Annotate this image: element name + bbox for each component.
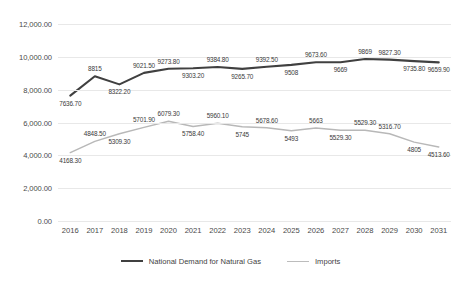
x-axis-tick-label: 2017 bbox=[86, 226, 103, 235]
x-axis-tick-label: 2019 bbox=[136, 226, 153, 235]
data-label: 9273.80 bbox=[158, 58, 180, 65]
y-axis: 12,000.0010,000.008,000.006,000.004,000.… bbox=[0, 0, 58, 240]
y-axis-tick-label: 2,000.00 bbox=[0, 184, 52, 193]
x-axis-tick-label: 2018 bbox=[111, 226, 128, 235]
x-axis-tick-label: 2021 bbox=[185, 226, 202, 235]
data-label: 5663 bbox=[309, 117, 323, 124]
data-label: 8815 bbox=[88, 65, 102, 72]
data-label: 5309.30 bbox=[108, 138, 130, 145]
data-label: 9384.80 bbox=[207, 56, 229, 63]
data-label: 9508 bbox=[285, 69, 299, 76]
gridline bbox=[58, 221, 451, 222]
y-axis-tick-label: 6,000.00 bbox=[0, 118, 52, 127]
data-label: 9735.80 bbox=[403, 65, 425, 72]
legend-item-label: National Demand for Natural Gas bbox=[149, 257, 261, 266]
x-axis-tick-label: 2030 bbox=[406, 226, 423, 235]
y-axis-tick-label: 4,000.00 bbox=[0, 151, 52, 160]
data-label: 9265.70 bbox=[231, 73, 253, 80]
x-axis-tick-label: 2024 bbox=[258, 226, 275, 235]
data-label: 9869 bbox=[358, 48, 372, 55]
x-axis-tick-label: 2025 bbox=[283, 226, 300, 235]
data-label: 9673.60 bbox=[305, 51, 327, 58]
data-label: 9303.20 bbox=[182, 72, 204, 79]
data-label: 4848.50 bbox=[84, 130, 106, 137]
data-label: 5745 bbox=[235, 131, 249, 138]
data-label: 5529.30 bbox=[354, 119, 376, 126]
data-label: 4805 bbox=[407, 146, 421, 153]
x-axis-tick-label: 2029 bbox=[381, 226, 398, 235]
legend-item[interactable]: National Demand for Natural Gas bbox=[121, 257, 261, 266]
data-label: 5529.30 bbox=[329, 134, 351, 141]
chart-legend: National Demand for Natural GasImports bbox=[0, 252, 461, 270]
data-label: 9021.50 bbox=[133, 62, 155, 69]
plot-area: 7636.7088158322.209021.509273.809303.209… bbox=[58, 24, 451, 221]
gridline bbox=[58, 24, 451, 25]
x-axis-tick-label: 2023 bbox=[234, 226, 251, 235]
data-label: 5960.10 bbox=[207, 112, 229, 119]
y-axis-tick-label: 10,000.00 bbox=[0, 52, 52, 61]
x-axis-tick-label: 2026 bbox=[307, 226, 324, 235]
data-label: 5758.40 bbox=[182, 130, 204, 137]
data-label: 6079.30 bbox=[158, 110, 180, 117]
data-label: 4513.60 bbox=[428, 151, 450, 158]
data-label: 9669 bbox=[334, 66, 348, 73]
y-axis-tick-label: 0.00 bbox=[0, 217, 52, 226]
x-axis-tick-label: 2028 bbox=[357, 226, 374, 235]
gridline bbox=[58, 188, 451, 189]
data-label: 5493 bbox=[285, 135, 299, 142]
y-axis-tick-label: 12,000.00 bbox=[0, 20, 52, 29]
legend-item-label: Imports bbox=[315, 257, 340, 266]
x-axis-tick-label: 2020 bbox=[160, 226, 177, 235]
data-label: 5316.70 bbox=[379, 123, 401, 130]
gridline bbox=[58, 57, 451, 58]
data-label: 8322.20 bbox=[108, 88, 130, 95]
x-axis-tick-label: 2022 bbox=[209, 226, 226, 235]
data-label: 5701.90 bbox=[133, 116, 155, 123]
data-label: 9392.50 bbox=[256, 56, 278, 63]
x-axis-tick-label: 2016 bbox=[62, 226, 79, 235]
data-label: 5678.60 bbox=[256, 117, 278, 124]
data-label: 7636.70 bbox=[59, 100, 81, 107]
data-label: 9827.30 bbox=[379, 49, 401, 56]
data-label: 4168.30 bbox=[59, 157, 81, 164]
legend-line-icon bbox=[287, 261, 309, 262]
x-axis-tick-label: 2027 bbox=[332, 226, 349, 235]
legend-line-icon bbox=[121, 260, 143, 262]
legend-item[interactable]: Imports bbox=[287, 257, 340, 266]
y-axis-tick-label: 8,000.00 bbox=[0, 85, 52, 94]
gridline bbox=[58, 155, 451, 156]
x-axis: 2016201720182019202020212022202320242025… bbox=[58, 226, 451, 242]
x-axis-tick-label: 2031 bbox=[430, 226, 447, 235]
line-chart: 12,000.0010,000.008,000.006,000.004,000.… bbox=[0, 0, 461, 286]
data-label: 9659.90 bbox=[428, 66, 450, 73]
